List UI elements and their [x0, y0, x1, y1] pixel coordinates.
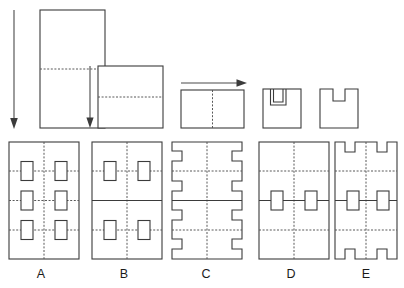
sheet-outline-step-5 [320, 89, 358, 128]
sequence-step-4 [263, 89, 301, 128]
choice-B-hole-1 [104, 162, 116, 181]
choice-D-hole-2 [305, 191, 317, 210]
choice-E-hole-1 [347, 191, 359, 210]
choice-E-hole-2 [377, 191, 389, 210]
choice-B-hole-3 [104, 221, 116, 240]
diagram-canvas: A B C [0, 0, 404, 288]
sequence-step-3 [181, 79, 247, 128]
puzzle-diagram: A B C [0, 0, 404, 288]
sequence-step-5 [320, 89, 358, 128]
choice-A-hole-4 [55, 191, 67, 210]
choice-D[interactable]: D [259, 142, 329, 281]
choice-A-label: A [37, 267, 46, 281]
choice-A-hole-2 [55, 162, 67, 181]
choice-B-label: B [120, 267, 128, 281]
sequence-step-2 [86, 66, 163, 128]
choice-A[interactable]: A [9, 142, 79, 281]
choice-A-hole-1 [21, 162, 33, 181]
choice-A-hole-3 [21, 191, 33, 210]
choice-C-label: C [201, 267, 210, 281]
choice-B-hole-4 [138, 221, 150, 240]
choice-A-hole-5 [21, 221, 33, 240]
choice-A-hole-6 [55, 221, 67, 240]
choice-D-hole-1 [271, 191, 283, 210]
choice-D-label: D [286, 267, 295, 281]
choice-E[interactable]: E [335, 142, 397, 281]
sheet-outline-step-4 [263, 89, 301, 128]
down-arrow-icon-1 [10, 10, 18, 129]
choice-B-hole-2 [138, 162, 150, 181]
choice-E-label: E [362, 267, 370, 281]
sequence-step-1 [10, 10, 105, 129]
right-arrow-icon [181, 79, 247, 86]
choice-B[interactable]: B [92, 142, 162, 281]
choice-C[interactable]: C [172, 142, 242, 281]
